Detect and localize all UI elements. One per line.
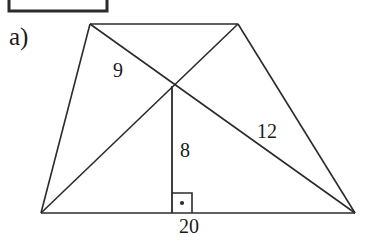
- figure-page: a) 9 12 8 20: [0, 0, 370, 240]
- trapezoid-right-side: [238, 24, 355, 213]
- diagonal-topleft-to-bottomright: [90, 24, 355, 213]
- geometry-figure: [0, 0, 370, 240]
- base-label-20: 20: [179, 216, 199, 236]
- diagonals: [41, 24, 355, 213]
- segment-label-12: 12: [257, 121, 277, 141]
- trapezoid-outline: [41, 24, 355, 213]
- right-angle-marker: [172, 193, 192, 213]
- trapezoid-left-side: [41, 24, 90, 213]
- diagonal-topright-to-bottomleft: [41, 24, 238, 213]
- part-label: a): [9, 24, 28, 49]
- crop-box-outline: [9, 0, 107, 11]
- segment-label-9: 9: [113, 60, 123, 80]
- partial-rectangle-border: [9, 0, 107, 11]
- right-angle-dot: [180, 201, 184, 205]
- altitude-label-8: 8: [180, 140, 190, 160]
